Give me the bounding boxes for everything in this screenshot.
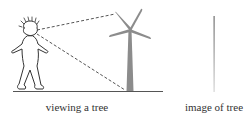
head: [23, 21, 37, 36]
sight-line-top: [37, 14, 115, 30]
label-viewing-a-tree: viewing a tree: [46, 101, 108, 113]
tree-image-line: [214, 16, 215, 92]
tree-branch-upper-right: [129, 9, 142, 31]
tree-branch-lower-right: [130, 29, 151, 39]
tree-branch-lower-left: [109, 29, 130, 37]
person-figure: [12, 17, 48, 89]
label-image-of-tree: image of tree: [185, 101, 243, 113]
body: [12, 36, 48, 89]
sight-line-bottom: [37, 34, 125, 90]
tree: [109, 9, 151, 91]
sight-lines: [37, 14, 125, 90]
tree-trunk: [127, 30, 134, 91]
tree-branch-upper-left: [115, 12, 132, 31]
